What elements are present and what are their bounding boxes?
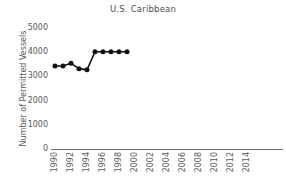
data-point xyxy=(93,49,98,54)
data-point xyxy=(85,67,90,72)
data-point xyxy=(77,66,82,71)
data-point xyxy=(61,63,66,68)
chart-container: U.S. Caribbean 0 1000 2000 3000 4000 500… xyxy=(0,0,286,189)
data-series-permitted-vessels xyxy=(0,0,286,189)
data-point xyxy=(53,63,58,68)
data-point xyxy=(125,49,130,54)
data-point xyxy=(69,61,74,66)
data-point xyxy=(109,49,114,54)
plot-area: 0 1000 2000 3000 4000 5000 Number of Per… xyxy=(0,0,286,189)
data-point xyxy=(101,49,106,54)
data-point xyxy=(117,49,122,54)
series-line xyxy=(55,52,127,70)
